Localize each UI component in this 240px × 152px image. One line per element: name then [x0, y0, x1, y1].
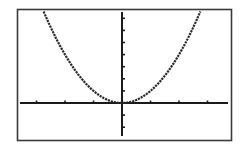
graph-plot [0, 0, 240, 152]
graph-frame [18, 10, 232, 141]
calculator-graph-screen [0, 0, 240, 152]
